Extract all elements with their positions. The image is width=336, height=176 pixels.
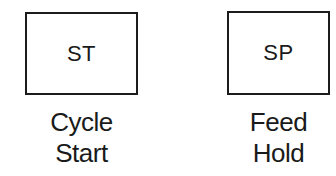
cycle-start-key-code: ST [67,41,96,67]
feed-hold-key-code: SP [263,40,293,66]
feed-hold-key[interactable]: SP [227,11,330,95]
cycle-start-label: Cycle Start [25,107,138,169]
feed-hold-label: Feed Hold [227,107,330,169]
cycle-start-label-line1: Cycle [25,107,138,138]
cycle-start-key[interactable]: ST [25,12,138,95]
feed-hold-label-line2: Hold [227,138,330,169]
feed-hold-label-line1: Feed [227,107,330,138]
cycle-start-label-line2: Start [25,138,138,169]
